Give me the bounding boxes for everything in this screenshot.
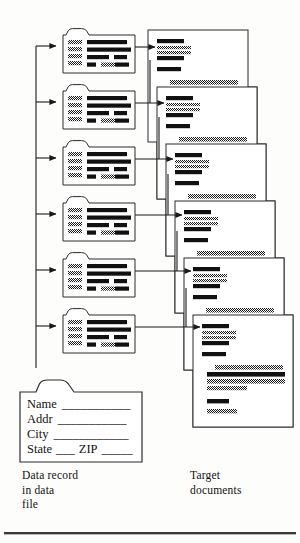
figure-canvas: Name___________ Addr___________ City____…: [0, 0, 300, 543]
target-document[interactable]: [193, 315, 293, 427]
field-label-state: State: [27, 442, 52, 456]
svg-text:City____________: City____________: [27, 427, 129, 441]
data-record-folder[interactable]: [63, 197, 135, 241]
data-flow-trunk: [36, 46, 56, 368]
field-rule-city: ____________: [53, 427, 130, 441]
record-card-fields: Name___________ Addr___________ City____…: [27, 397, 134, 456]
field-rule-state: ___: [55, 442, 76, 456]
data-record-folder[interactable]: [63, 29, 135, 73]
footer-rule: [4, 532, 296, 534]
data-record-folder[interactable]: [63, 141, 135, 185]
mail-merge-figure: Name___________ Addr___________ City____…: [0, 0, 300, 543]
data-record-folder[interactable]: [63, 85, 135, 129]
caption-data-record: Data record in data file: [22, 468, 142, 512]
field-label-name: Name: [27, 397, 57, 411]
field-rule-zip: _____: [101, 442, 134, 456]
field-rule-addr: ___________: [57, 412, 128, 426]
field-rule-name: ___________: [61, 397, 132, 411]
caption-target-documents: Target documents: [190, 468, 295, 497]
svg-text:Name___________: Name___________: [27, 397, 131, 411]
field-label-zip: ZIP: [79, 442, 98, 456]
data-record-folder[interactable]: [63, 253, 135, 297]
svg-text:Addr___________: Addr___________: [27, 412, 127, 426]
field-label-city: City: [27, 427, 49, 441]
data-record-folder[interactable]: [63, 309, 135, 353]
data-records-column: [63, 29, 135, 353]
field-label-addr: Addr: [27, 412, 54, 426]
svg-text:State___ZIP_____: State___ZIP_____: [27, 442, 134, 456]
